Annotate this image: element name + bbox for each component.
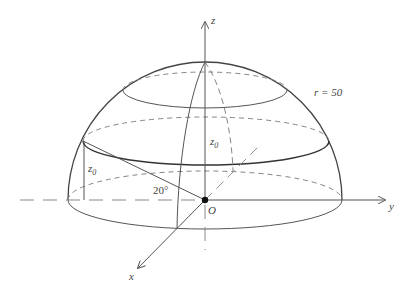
origin-point — [202, 197, 208, 203]
hemisphere-diagram: z y x O r = 50 z0 z0 20° — [0, 0, 408, 292]
middle-ellipse-back — [83, 117, 329, 141]
z-axis-label: z — [210, 14, 216, 26]
y-axis-label: y — [388, 200, 394, 212]
back-meridian — [205, 62, 233, 171]
z0-label-center: z0 — [209, 135, 218, 150]
x-axis-label: x — [128, 270, 134, 282]
angle-label: 20° — [153, 184, 168, 196]
radius-line — [83, 141, 205, 200]
radius-label: r = 50 — [314, 86, 343, 98]
origin-label: O — [208, 204, 216, 216]
x-axis-negative-dashed — [205, 147, 258, 200]
z0-label-left: z0 — [87, 162, 96, 177]
middle-ellipse-front — [83, 141, 329, 165]
x-axis — [138, 200, 205, 268]
